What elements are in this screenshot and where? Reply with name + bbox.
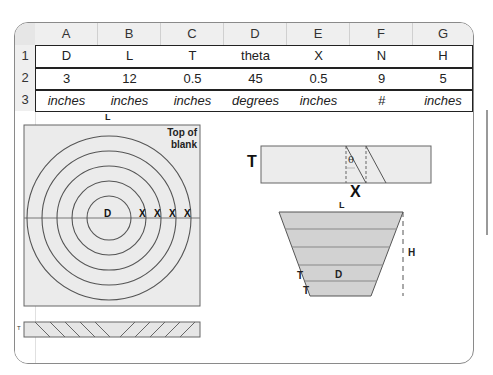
bowl-label-t1: T: [297, 270, 303, 281]
top-view-label-x4: X: [184, 208, 191, 219]
bowl-profile-diagram: [279, 212, 403, 296]
top-view-label-x1: X: [139, 208, 146, 219]
top-view-label-top-of-blank: Top of blank: [161, 127, 197, 151]
cross-section-label-x: X: [350, 183, 361, 201]
side-strip-diagram: [24, 322, 200, 337]
cross-section-label-theta: θ: [348, 154, 354, 165]
top-view-label-l: L: [105, 112, 111, 122]
top-view-label-x2: X: [154, 208, 161, 219]
top-view-label-x3: X: [169, 208, 176, 219]
cross-section-label-t: T: [247, 153, 257, 171]
window-edge-divider: [486, 110, 488, 235]
spreadsheet-frame: A B C D E F G 1 2 3 D L T theta X N H 3 …: [14, 22, 474, 364]
cross-section-diagram: [261, 146, 431, 183]
bowl-label-d: D: [335, 269, 342, 280]
bowl-label-t2: T: [303, 285, 309, 296]
diagram-canvas: [15, 23, 473, 363]
bowl-label-h: H: [408, 247, 415, 258]
side-strip-label-t: T: [17, 325, 21, 331]
bowl-label-l: L: [339, 200, 345, 210]
top-view-label-d: D: [104, 208, 111, 219]
